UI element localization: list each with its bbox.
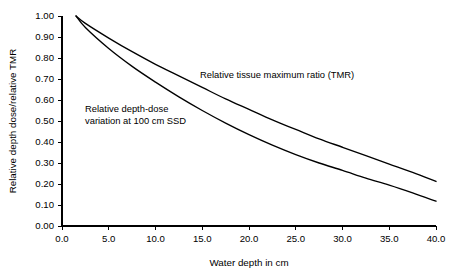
y-tick-label: 0.50 — [35, 115, 54, 126]
x-tick-label: 40.0 — [427, 233, 446, 244]
y-tick-label: 0.40 — [35, 136, 54, 147]
x-tick-label: 20.0 — [240, 233, 259, 244]
annotation-ssd-line2: variation at 100 cm SSD — [85, 115, 186, 126]
y-tick-label: 0.10 — [35, 199, 54, 210]
y-tick-label: 0.00 — [35, 220, 54, 231]
annotation-tmr: Relative tissue maximum ratio (TMR) — [200, 69, 354, 80]
y-tick-label: 0.80 — [35, 52, 54, 63]
x-tick-label: 15.0 — [193, 233, 212, 244]
x-tick-label: 35.0 — [380, 233, 399, 244]
depth-dose-chart: 0.000.100.200.300.400.500.600.700.800.90… — [0, 0, 456, 274]
y-tick-label: 0.90 — [35, 31, 54, 42]
x-tick-label: 30.0 — [333, 233, 352, 244]
y-tick-label: 1.00 — [35, 10, 54, 21]
x-axis-title: Water depth in cm — [209, 257, 288, 268]
x-tick-label: 0.0 — [55, 233, 68, 244]
y-tick-label: 0.60 — [35, 94, 54, 105]
x-tick-label: 5.0 — [102, 233, 115, 244]
chart-figure: 0.000.100.200.300.400.500.600.700.800.90… — [0, 0, 456, 274]
y-tick-label: 0.70 — [35, 73, 54, 84]
y-tick-label: 0.30 — [35, 157, 54, 168]
y-tick-label: 0.20 — [35, 178, 54, 189]
annotation-ssd-line1: Relative depth-dose — [85, 103, 168, 114]
x-tick-label: 25.0 — [286, 233, 305, 244]
x-tick-label: 10.0 — [146, 233, 165, 244]
y-axis-title: Relative depth dose/relative TMR — [7, 49, 18, 194]
